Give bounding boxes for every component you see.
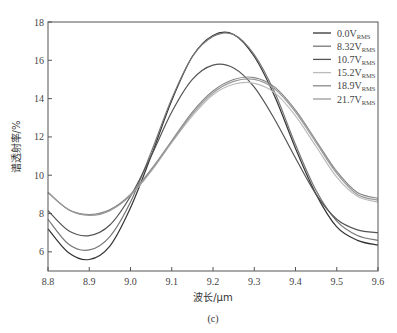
series-curve-18.9V xyxy=(48,77,378,215)
figure-caption: (c) xyxy=(207,313,218,325)
series-curve-10.7V xyxy=(48,64,378,236)
x-tick-label: 9.5 xyxy=(331,276,344,287)
y-tick-label: 14 xyxy=(34,93,44,104)
legend-label: 10.7VRMS xyxy=(337,54,376,66)
y-tick-label: 12 xyxy=(34,131,44,142)
series-curve-15.2V xyxy=(48,82,378,214)
y-tick-label: 10 xyxy=(34,170,44,181)
legend-label: 18.9VRMS xyxy=(337,80,376,92)
y-tick-label: 18 xyxy=(34,17,44,28)
transmittance-chart: 681012141618 8.88.99.09.19.29.39.49.59.6… xyxy=(0,0,397,333)
plot-curves xyxy=(48,32,378,260)
x-tick-label: 9.1 xyxy=(166,276,179,287)
legend: 0.0VRMS8.32VRMS10.7VRMS15.2VRMS18.9VRMS2… xyxy=(313,28,376,106)
x-tick-label: 8.9 xyxy=(83,276,96,287)
y-tick-label: 8 xyxy=(39,208,44,219)
x-tick-label: 9.0 xyxy=(124,276,137,287)
x-tick-label: 9.4 xyxy=(289,276,302,287)
x-axis-ticks: 8.88.99.09.19.29.39.49.59.6 xyxy=(42,267,385,287)
legend-label: 15.2VRMS xyxy=(337,67,376,79)
legend-label: 21.7VRMS xyxy=(337,94,376,106)
series-curve-0.0V xyxy=(48,32,378,260)
x-tick-label: 9.6 xyxy=(372,276,385,287)
x-tick-label: 9.3 xyxy=(248,276,261,287)
y-tick-label: 6 xyxy=(39,246,44,257)
y-axis-title: 谱透射率/% xyxy=(10,121,22,174)
x-tick-label: 8.8 xyxy=(42,276,55,287)
y-tick-label: 16 xyxy=(34,55,44,66)
x-tick-label: 9.2 xyxy=(207,276,220,287)
legend-label: 8.32VRMS xyxy=(337,41,376,53)
x-axis-title: 波长/μm xyxy=(193,291,232,303)
legend-label: 0.0VRMS xyxy=(337,28,371,40)
